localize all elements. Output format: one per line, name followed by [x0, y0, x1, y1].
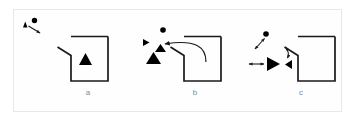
- panel-label-b: b: [187, 89, 203, 97]
- agent-triangle: [267, 57, 280, 71]
- target-triangle-icon: [285, 60, 292, 69]
- figure-drawing: [0, 0, 354, 122]
- legend-dot-icon: [32, 18, 37, 23]
- legend-arrow-icon: [29, 26, 41, 33]
- agent-triangle: [146, 52, 161, 64]
- panel-c: [249, 31, 335, 81]
- heading-marker-icon: [143, 39, 150, 46]
- panel-a: [23, 18, 108, 81]
- goal-dot-icon: [263, 31, 269, 37]
- goal-dot-icon: [160, 27, 166, 33]
- diagonal-double-arrow-icon: [255, 39, 265, 50]
- mid-triangle-icon: [155, 44, 166, 52]
- agent-triangle: [79, 53, 92, 65]
- panel-b: [143, 27, 221, 81]
- figure-root: a b c: [0, 0, 354, 122]
- panel-label-c: c: [293, 89, 309, 97]
- enclosure-shape: [285, 37, 336, 82]
- panel-label-a: a: [80, 89, 96, 97]
- curved-escape-arrow: [165, 43, 206, 62]
- legend-triangle-icon: [23, 22, 28, 28]
